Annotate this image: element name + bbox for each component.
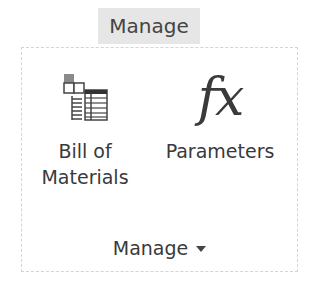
fx-icon: fx [198, 56, 243, 138]
group-label: Manage [113, 237, 188, 259]
tab-label: Manage [109, 14, 188, 38]
caret-down-icon [196, 246, 206, 252]
parameters-button[interactable]: fx Parameters [150, 56, 290, 164]
tab-manage[interactable]: Manage [98, 8, 200, 44]
bill-of-materials-label: Bill of Materials [41, 138, 128, 190]
manage-group-dropdown[interactable]: Manage [22, 237, 297, 259]
bill-of-materials-icon [60, 56, 110, 138]
parameters-label: Parameters [166, 138, 275, 164]
bill-of-materials-button[interactable]: Bill of Materials [30, 56, 140, 190]
manage-panel: Bill of Materials fx Parameters Manage [21, 47, 298, 272]
